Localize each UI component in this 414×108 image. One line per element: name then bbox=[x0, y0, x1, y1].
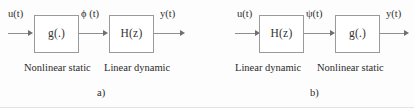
output-arrowhead-b bbox=[404, 30, 409, 36]
output-arrowhead-a bbox=[180, 30, 185, 36]
subfigure-label-a: a) bbox=[97, 88, 105, 99]
middle-wire-a bbox=[79, 33, 105, 34]
block-b-nonlinear-static-label: g(.) bbox=[349, 28, 366, 40]
input-signal-label-a: u(t) bbox=[8, 9, 23, 20]
caption-b-linear-dynamic: Linear dynamic bbox=[235, 63, 301, 74]
block-b-linear-dynamic-label: H(z) bbox=[271, 28, 293, 40]
input-wire-b bbox=[235, 33, 257, 34]
block-b-linear-dynamic[interactable]: H(z) bbox=[259, 15, 304, 53]
output-signal-label-a: y(t) bbox=[160, 9, 175, 20]
middle-wire-b bbox=[304, 33, 332, 34]
block-a-nonlinear-static[interactable]: g(.) bbox=[34, 15, 79, 53]
block-a-linear-dynamic-label: H(z) bbox=[121, 28, 143, 40]
input-wire-a bbox=[8, 33, 30, 34]
caption-b-nonlinear-static: Nonlinear static bbox=[317, 63, 384, 74]
intermediate-signal-label-b: ψ(t) bbox=[306, 9, 322, 20]
caption-a-linear-dynamic: Linear dynamic bbox=[104, 63, 170, 74]
input-signal-label-b: u(t) bbox=[237, 9, 252, 20]
middle-arrowhead-a bbox=[103, 30, 108, 36]
diagram-b: u(t) H(z) ψ(t) g(.) y(t) Linear dynamic … bbox=[207, 0, 414, 108]
block-b-nonlinear-static[interactable]: g(.) bbox=[335, 15, 380, 53]
output-wire-b bbox=[380, 33, 406, 34]
diagram-a: u(t) g(.) ϕ (t) H(z) y(t) Nonlinear stat… bbox=[0, 0, 207, 108]
subfigure-label-b: b) bbox=[310, 88, 319, 99]
output-wire-a bbox=[154, 33, 182, 34]
block-diagram-figure: u(t) g(.) ϕ (t) H(z) y(t) Nonlinear stat… bbox=[0, 0, 414, 108]
caption-a-nonlinear-static: Nonlinear static bbox=[24, 63, 91, 74]
block-a-nonlinear-static-label: g(.) bbox=[48, 28, 65, 40]
input-arrowhead-a bbox=[28, 30, 33, 36]
output-signal-label-b: y(t) bbox=[386, 9, 401, 20]
intermediate-signal-label-a: ϕ (t) bbox=[81, 9, 99, 20]
block-a-linear-dynamic[interactable]: H(z) bbox=[109, 15, 154, 53]
